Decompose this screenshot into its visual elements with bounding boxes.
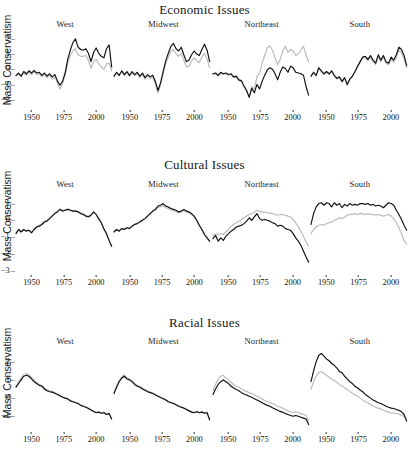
plot-area [114,348,212,430]
x-tick-label: 1950 [220,432,237,444]
series-gray [213,210,309,246]
y-tick-label: −2– [1,94,16,103]
x-tick-label: 2000 [383,275,400,287]
panel-title: Midwest [114,179,212,189]
panel-west: West2–1–0–−1–−2–195019752000 [16,0,114,155]
y-tick-label: 2– [6,34,16,43]
x-tick-label: 2000 [88,110,105,122]
x-tick-label: 1975 [55,110,72,122]
plot-area [311,348,409,430]
y-axis-label-text: Mass Conservatism [1,328,13,419]
plot-area: 1–0–−1–−2–−3– [16,191,114,273]
panel-title: West [16,19,114,29]
x-tick-label: 1950 [220,275,237,287]
y-tick-label: 0– [6,215,16,224]
panel-title: Northeast [213,179,311,189]
plot-area [213,191,311,273]
plot-area [114,191,212,273]
x-tick-label: 1975 [350,432,367,444]
x-tick-label: 1975 [350,110,367,122]
y-axis-label-text: Mass Conservatism [1,15,13,106]
y-tick-label: 0– [6,64,16,73]
panel-midwest: Midwest195019752000 [114,155,212,310]
x-tick-label: 1950 [23,432,40,444]
x-tick-label: 1975 [154,110,171,122]
panel-south: South195019752000 [311,155,409,310]
x-tick-label: 1950 [318,432,335,444]
series-black [114,204,210,242]
series-gray [114,49,210,92]
chart-block-economic: Economic Issues Mass Conservatism West2–… [0,0,409,155]
panel-title: South [311,336,409,346]
y-tick-label: −2– [1,248,16,257]
x-tick-label: 1975 [55,275,72,287]
y-tick-label: −1– [1,411,16,420]
panel-title: Northeast [213,336,311,346]
x-tick-label: 1950 [121,110,138,122]
series-gray [311,214,407,245]
x-axis: 195019752000 [114,275,212,291]
x-axis: 195019752000 [311,110,409,126]
x-tick-label: 1950 [318,275,335,287]
y-tick-label: 1– [6,198,16,207]
x-axis: 195019752000 [114,432,212,448]
series-black [213,380,309,425]
series-black [213,66,309,97]
panel-midwest: Midwest195019752000 [114,310,212,457]
series-black [114,376,210,420]
x-axis: 195019752000 [114,110,212,126]
x-tick-label: 2000 [186,110,203,122]
x-axis: 195019752000 [16,275,114,291]
panel-northeast: Northeast195019752000 [213,0,311,155]
chart-block-cultural: Cultural Issues Mass Conservatism West1–… [0,155,409,310]
series-black [16,209,112,246]
y-tick-label: 1– [6,49,16,58]
x-tick-label: 1975 [154,432,171,444]
panel-title: Midwest [114,19,212,29]
y-tick-label: −1– [1,232,16,241]
x-tick-label: 1975 [252,432,269,444]
x-tick-label: 1975 [350,275,367,287]
series-black [16,375,112,419]
x-tick-label: 2000 [186,275,203,287]
y-tick-label: −3– [1,265,16,274]
series-gray [213,46,309,97]
x-tick-label: 1975 [55,432,72,444]
chart-block-racial: Racial Issues Mass Conservatism West2–1–… [0,310,409,457]
x-tick-label: 1950 [121,432,138,444]
x-tick-label: 2000 [186,432,203,444]
plot-area [311,191,409,273]
panel-title: Midwest [114,336,212,346]
plot-area [213,348,311,430]
panel-title: South [311,19,409,29]
x-tick-label: 2000 [88,432,105,444]
plot-area: 2–1–0–−1–−2– [16,32,114,108]
x-tick-label: 2000 [88,275,105,287]
series-black [311,353,407,420]
x-tick-label: 1975 [252,275,269,287]
series-gray [311,50,407,85]
series-black [114,43,210,90]
series-gray [16,209,112,246]
x-tick-label: 1950 [23,275,40,287]
y-tick-label: 2– [6,356,16,365]
panel-northeast: Northeast195019752000 [213,155,311,310]
x-axis: 195019752000 [311,275,409,291]
series-gray [311,372,407,422]
y-tick-label: −1– [1,79,16,88]
mass-conservatism-figure: Economic Issues Mass Conservatism West2–… [0,0,409,457]
plot-area: 2–1–0–−1– [16,348,114,430]
series-gray [114,206,210,242]
panel-title: South [311,179,409,189]
plot-area [311,32,409,108]
panel-title: Northeast [213,19,311,29]
x-tick-label: 2000 [284,110,301,122]
panel-west: West1–0–−1–−2–−3–195019752000 [16,155,114,310]
panel-title: West [16,179,114,189]
panel-title: West [16,336,114,346]
x-tick-label: 2000 [383,432,400,444]
x-tick-label: 1950 [23,110,40,122]
x-tick-label: 1950 [220,110,237,122]
x-axis: 195019752000 [213,432,311,448]
x-tick-label: 1975 [252,110,269,122]
